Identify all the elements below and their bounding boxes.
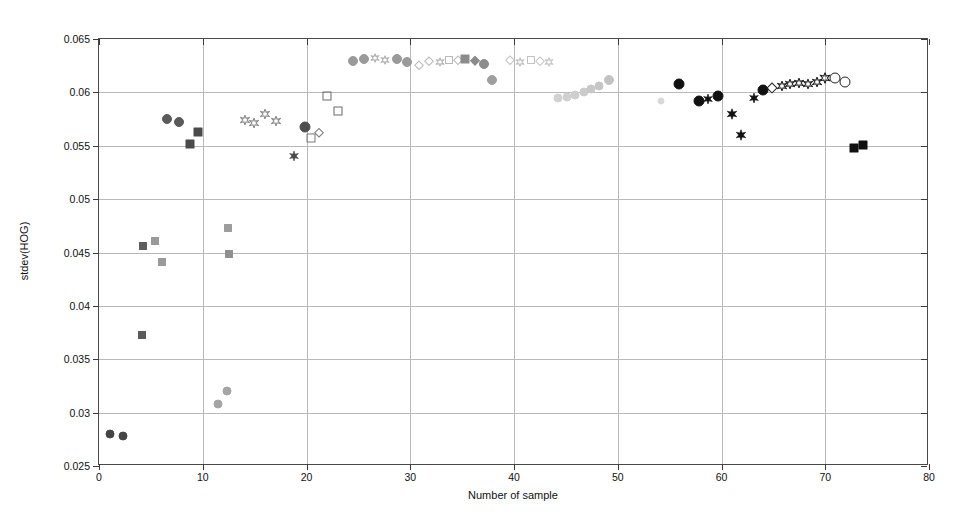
data-point-circle [222,387,231,396]
data-point-square-open [527,56,535,64]
data-point-circle [693,95,704,106]
gridline-vertical [514,39,515,464]
data-point-circle [571,90,580,99]
gridline-horizontal [99,413,927,414]
data-point-square [193,127,202,136]
data-point-circle [162,114,172,124]
data-point-circle [106,429,115,438]
data-point-star-open [249,118,259,128]
data-point-star-open [260,109,270,119]
gridline-horizontal [99,199,927,200]
data-point-star-open [381,56,390,65]
x-tick [618,464,619,470]
data-point-square [224,224,232,232]
x-tick [99,464,100,470]
x-tick-top [929,39,930,45]
data-point-diamond [469,56,479,66]
data-point-circle [604,75,614,85]
data-point-star [726,108,737,119]
data-point-circle [758,85,769,96]
x-tick-label: 0 [96,471,102,483]
y-tick [93,199,99,200]
data-point-square [858,140,867,149]
data-point-star-open [240,115,250,125]
x-tick-label: 10 [197,471,209,483]
y-tick [93,146,99,147]
scatter-plot-figure: stdev(HOG) 0.0250.030.0350.040.0450.050.… [0,0,956,517]
data-point-square-open [333,106,342,115]
y-tick [93,253,99,254]
data-point-star-open [370,54,379,63]
y-tick-label: 0.065 [64,33,90,45]
y-tick-label: 0.03 [70,407,90,419]
gridline-vertical [203,39,204,464]
y-tick [93,359,99,360]
data-point-star [736,130,747,141]
data-point-circle [673,78,684,89]
y-tick-right [921,306,927,307]
gridline-vertical [307,39,308,464]
plot-area: 0.0250.030.0350.040.0450.050.0550.060.06… [98,38,928,465]
gridline-vertical [825,39,826,464]
data-point-circle [595,81,604,90]
data-point-circle-open [829,73,840,84]
data-point-diamond-open [453,56,462,65]
data-point-circle [553,93,562,102]
data-point-circle [348,56,358,66]
data-point-circle [174,117,184,127]
data-point-star-open [436,58,445,67]
gridline-horizontal [99,306,927,307]
data-point-diamond-open [314,128,324,138]
data-point-star-open [777,81,787,91]
y-axis-title: stdev(HOG) [18,222,30,281]
data-point-circle [658,97,665,104]
data-point-circle [300,121,311,132]
x-tick [410,464,411,470]
x-tick-top [203,39,204,45]
x-tick [722,464,723,470]
y-tick [93,413,99,414]
y-tick-label: 0.045 [64,247,90,259]
y-tick-label: 0.04 [70,300,90,312]
y-tick-right [921,199,927,200]
x-tick-top [722,39,723,45]
data-point-square-open [445,56,453,64]
gridline-vertical [618,39,619,464]
y-tick-right [921,146,927,147]
x-axis-title: Number of sample [98,489,928,501]
x-tick-top [618,39,619,45]
data-point-circle [214,400,223,409]
x-tick-label: 70 [819,471,831,483]
x-tick [307,464,308,470]
x-tick [514,464,515,470]
data-point-square [158,258,166,266]
data-point-square [850,143,859,152]
data-point-star-open [803,79,813,89]
data-point-square [461,55,470,64]
y-tick-right [921,39,927,40]
y-tick-right [921,466,927,467]
data-point-circle [479,59,489,69]
data-point-star [703,94,713,104]
y-tick-label: 0.05 [70,193,90,205]
x-tick [203,464,204,470]
data-point-diamond-open [424,57,433,66]
data-point-square [139,242,147,250]
data-point-star-open [271,116,281,126]
data-point-star [749,93,759,103]
gridline-horizontal [99,359,927,360]
x-tick-top [99,39,100,45]
data-point-circle-open [839,76,850,87]
y-tick-right [921,253,927,254]
x-tick-top [514,39,515,45]
y-tick [93,92,99,93]
y-tick-right [921,413,927,414]
y-tick-right [921,359,927,360]
gridline-vertical [722,39,723,464]
y-tick-right [921,92,927,93]
x-tick-label: 30 [404,471,416,483]
data-point-star-open [545,58,554,67]
data-point-square [138,331,146,339]
y-tick [93,306,99,307]
x-tick [825,464,826,470]
